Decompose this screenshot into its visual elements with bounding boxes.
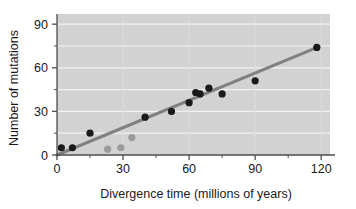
- y-tick-label: 30: [34, 105, 48, 119]
- data-point: [168, 108, 175, 115]
- plot-area-background: [57, 14, 330, 155]
- data-point: [197, 90, 204, 97]
- data-point: [313, 44, 320, 51]
- data-point: [104, 146, 111, 153]
- data-point: [86, 130, 93, 137]
- x-tick-label: 60: [182, 162, 196, 176]
- x-axis-title: Divergence time (millions of years): [100, 187, 292, 201]
- x-tick-label: 90: [248, 162, 262, 176]
- y-tick-label: 60: [34, 61, 48, 75]
- y-axis-title: Number of mutations: [7, 30, 21, 146]
- data-point: [205, 85, 212, 92]
- x-tick-label: 30: [116, 162, 130, 176]
- data-point: [141, 114, 148, 121]
- data-point: [128, 134, 135, 141]
- y-tick-label: 0: [41, 149, 48, 163]
- x-tick-label: 0: [54, 162, 61, 176]
- scatter-plot-svg: 0306090120 0306090 Divergence time (mill…: [0, 0, 356, 209]
- y-tick-label: 90: [34, 18, 48, 32]
- data-point: [185, 99, 192, 106]
- data-point: [69, 144, 76, 151]
- x-tick-label: 120: [311, 162, 332, 176]
- data-point: [219, 90, 226, 97]
- data-point: [117, 144, 124, 151]
- data-point: [58, 144, 65, 151]
- data-point: [252, 77, 259, 84]
- chart-figure: 0306090120 0306090 Divergence time (mill…: [0, 0, 356, 209]
